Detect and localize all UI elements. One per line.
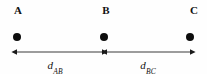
dimension-symbol-ab: d	[47, 59, 53, 71]
dimension-subscript-ab: AB	[53, 67, 63, 74]
dimension-label-d-ab: dAB	[47, 60, 62, 74]
collinear-points-distance-diagram: A B C dAB dBC	[0, 0, 207, 74]
dimension-arrows	[0, 0, 207, 74]
dimension-symbol-bc: d	[140, 59, 146, 71]
dimension-label-d-bc: dBC	[140, 60, 155, 74]
dimension-subscript-bc: BC	[146, 67, 156, 74]
